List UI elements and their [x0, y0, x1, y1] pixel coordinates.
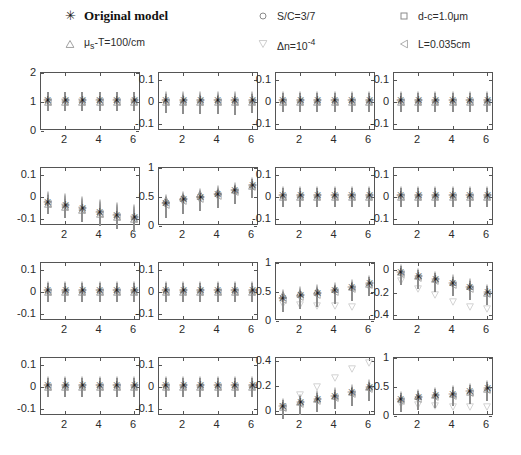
y-tick	[489, 315, 492, 316]
y-tick-label: 0.1	[374, 168, 389, 180]
subplot-r1-c4[interactable]: ✳✳✳✳✳✳246-0.100.1	[393, 72, 493, 130]
x-tick-label: 6	[365, 228, 371, 240]
star-marker: ✳	[61, 380, 70, 391]
subplot-r2-c2[interactable]: ✳✳✳✳✳✳24600.51	[158, 167, 258, 225]
star-marker: ✳	[179, 380, 188, 391]
legend-item-length[interactable]: L=0.035cm	[396, 36, 470, 52]
legend-label-mus-t-rest: -T=100/cm	[94, 36, 144, 48]
subplot-r3-c3[interactable]: ✳✳✳✳✳✳24600.51	[275, 262, 375, 320]
x-tick	[65, 316, 66, 319]
subplot-r4-c2[interactable]: ✳✳✳✳✳✳246-0.100.1	[158, 357, 258, 415]
data-point: ✳	[365, 385, 374, 393]
legend-item-sc-ratio[interactable]: S/C=3/7	[255, 8, 315, 24]
triangle-down-marker	[431, 291, 439, 299]
data-point: ✳	[61, 203, 70, 211]
star-marker: ✳	[130, 212, 139, 223]
star-marker: ✳	[465, 386, 474, 397]
data-point: ✳	[179, 383, 188, 391]
data-point: ✳	[230, 288, 239, 296]
x-tick	[134, 73, 135, 76]
x-tick	[487, 411, 488, 414]
legend-item-original-model[interactable]: ✳ Original model	[62, 8, 168, 24]
star-marker: ✳	[365, 278, 374, 289]
subplot-r3-c4[interactable]: ✳✳✳✳✳✳246-0.4-0.20	[393, 262, 493, 320]
star-marker: ✳	[396, 95, 405, 106]
subplot-r2-c4[interactable]: ✳✳✳✳✳✳246-0.100.1	[393, 167, 493, 225]
legend-label-sc-ratio: S/C=3/7	[277, 10, 315, 22]
x-tick-label: 2	[179, 418, 185, 430]
axes-box: ✳✳✳✳✳✳	[393, 262, 493, 320]
y-tick-label: -0.4	[370, 308, 389, 320]
data-point: ✳	[130, 288, 139, 296]
legend-item-d-c[interactable]: d-c=1.0μm	[396, 8, 468, 24]
data-point	[483, 403, 491, 411]
x-tick	[300, 358, 301, 361]
legend-item-delta-n[interactable]: Δn=10-4	[255, 36, 315, 52]
star-marker: ✳	[161, 380, 170, 391]
y-tick	[371, 321, 374, 322]
star-marker: ✳	[112, 210, 121, 221]
y-tick-label: 0.1	[374, 73, 389, 85]
subplot-r3-c1[interactable]: ✳✳✳✳✳✳246-0.100.1	[40, 262, 140, 320]
data-point: ✳	[431, 277, 440, 285]
x-tick	[453, 316, 454, 319]
star-marker: ✳	[95, 285, 104, 296]
x-tick	[335, 126, 336, 129]
axes-box: ✳✳✳✳✳✳	[275, 357, 375, 415]
x-tick-label: 2	[296, 228, 302, 240]
x-tick-label: 4	[214, 133, 220, 145]
data-point: ✳	[347, 390, 356, 398]
subplot-r1-c1[interactable]: ✳✳✳✳✳✳246012	[40, 72, 140, 130]
star-marker: ✳	[161, 285, 170, 296]
axes-box: ✳✳✳✳✳✳	[393, 167, 493, 225]
star-marker: ✳	[230, 285, 239, 296]
data-point: ✳	[465, 98, 474, 106]
star-marker: ✳	[365, 95, 374, 106]
legend-label-delta-n-base: Δn=10	[277, 39, 308, 51]
x-tick-label: 6	[248, 228, 254, 240]
triangle-down-glyph	[259, 40, 268, 48]
star-marker: ✳	[196, 285, 205, 296]
x-tick	[418, 263, 419, 266]
x-tick	[100, 316, 101, 319]
data-point: ✳	[330, 193, 339, 201]
y-tick	[371, 411, 374, 412]
data-point: ✳	[431, 98, 440, 106]
y-tick-label: 0	[30, 124, 36, 136]
subplot-r4-c3[interactable]: ✳✳✳✳✳✳24600.20.4	[275, 357, 375, 415]
y-tick	[136, 175, 139, 176]
x-tick	[487, 263, 488, 266]
x-tick-label: 4	[96, 133, 102, 145]
y-tick	[276, 80, 279, 81]
x-tick-label: 4	[449, 133, 455, 145]
data-point: ✳	[296, 293, 305, 301]
triangle-down-marker	[466, 403, 474, 411]
subplot-r2-c1[interactable]: ✳✳✳✳✳✳246-0.100.1	[40, 167, 140, 225]
subplot-r2-c3[interactable]: ✳✳✳✳✳✳246-0.100.1	[275, 167, 375, 225]
axes-box: ✳✳✳✳✳✳	[393, 72, 493, 130]
data-point: ✳	[95, 210, 104, 218]
y-tick	[254, 197, 257, 198]
data-point: ✳	[179, 98, 188, 106]
y-tick	[41, 409, 44, 410]
subplot-r3-c2[interactable]: ✳✳✳✳✳✳246-0.100.1	[158, 262, 258, 320]
subplot-r1-c2[interactable]: ✳✳✳✳✳✳246-0.100.1	[158, 72, 258, 130]
subplot-r4-c1[interactable]: ✳✳✳✳✳✳246-0.100.1	[40, 357, 140, 415]
data-point	[431, 291, 439, 299]
subplot-r4-c4[interactable]: ✳✳✳✳✳✳24600.51	[393, 357, 493, 415]
star-marker: ✳	[230, 380, 239, 391]
star-marker: ✳	[130, 380, 139, 391]
subplot-r1-c3[interactable]: ✳✳✳✳✳✳246-0.100.1	[275, 72, 375, 130]
y-tick	[489, 175, 492, 176]
y-tick	[276, 361, 279, 362]
x-tick	[218, 411, 219, 414]
y-tick	[41, 219, 44, 220]
x-tick	[487, 221, 488, 224]
legend-item-mus-t[interactable]: μs-T=100/cm	[62, 36, 145, 52]
x-tick	[418, 168, 419, 171]
star-marker: ✳	[431, 274, 440, 285]
star-marker: ✳	[278, 190, 287, 201]
star-marker: ✳	[483, 95, 492, 106]
data-point: ✳	[296, 400, 305, 408]
y-tick	[489, 80, 492, 81]
